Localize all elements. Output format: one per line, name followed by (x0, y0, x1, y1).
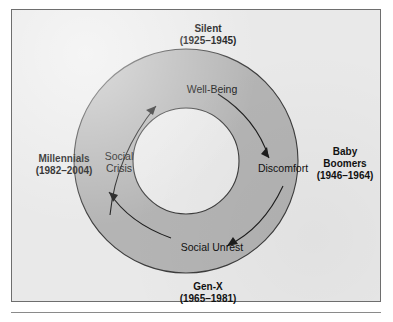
stage-text-social-crisis: Social (89, 150, 149, 162)
stage-text-well-being: Well-Being (157, 83, 267, 95)
figure-bottom-rule (11, 312, 381, 313)
generation-years-silent: (1925–1945) (133, 35, 283, 47)
figure-root: Silent (1925–1945) Baby Boomers (1946–19… (0, 0, 393, 322)
generation-years-gen-x: (1965–1981) (133, 293, 283, 305)
generation-label-silent: Silent (1925–1945) (133, 23, 283, 47)
generation-name-gen-x: Gen-X (133, 281, 283, 293)
stage-label-social-crisis: Social Crisis (89, 150, 149, 175)
generation-label-gen-x: Gen-X (1965–1981) (133, 281, 283, 305)
stage-text2-social-crisis: Crisis (89, 162, 149, 174)
stage-text-discomfort: Discomfort (245, 162, 321, 174)
stage-label-well-being: Well-Being (157, 83, 267, 95)
stage-label-social-unrest: Social Unrest (152, 241, 272, 253)
stage-text-social-unrest: Social Unrest (152, 241, 272, 253)
stage-label-discomfort: Discomfort (245, 162, 321, 174)
figure-panel: Silent (1925–1945) Baby Boomers (1946–19… (11, 9, 381, 302)
generation-name-silent: Silent (133, 23, 283, 35)
generation-name-baby-boomers: Baby (295, 146, 393, 158)
